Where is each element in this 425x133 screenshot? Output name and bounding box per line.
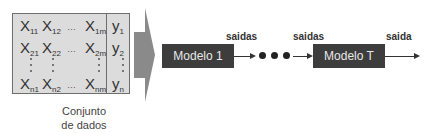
outputs-label-1: saidas: [226, 31, 257, 42]
dot-icon: [283, 52, 290, 59]
cell-y2: y2: [112, 40, 124, 58]
big-arrow-icon: [132, 6, 158, 104]
connector-line: [234, 56, 250, 57]
dot-icon: [271, 52, 278, 59]
connector-line: [293, 56, 307, 57]
cell-x12: X12: [42, 18, 61, 36]
cell-xn2: Xn2: [42, 76, 61, 94]
cell-x2m: X2m: [85, 40, 106, 58]
vertical-ellipsis: [52, 58, 54, 76]
outputs-label-2: saidas: [293, 31, 324, 42]
arrowhead-icon: [250, 53, 256, 59]
vertical-ellipsis: [98, 58, 100, 76]
cell-xnm: Xnm: [85, 76, 106, 94]
arrowhead-icon: [414, 53, 420, 59]
final-output-label: saida: [386, 31, 412, 42]
vertical-ellipsis: [30, 58, 32, 76]
cell-x22: X22: [42, 40, 61, 58]
dataset-caption: Conjunto de dados: [34, 104, 134, 132]
target-column-divider: [106, 13, 107, 94]
connector-line: [385, 56, 414, 57]
cell-x1m: X1m: [85, 18, 106, 36]
model-1-box: Modelo 1: [162, 44, 234, 68]
cell-x11: X11: [20, 18, 38, 36]
caption-line2: de dados: [34, 118, 134, 132]
ellipsis: …: [67, 80, 76, 90]
cell-y1: y1: [112, 18, 124, 36]
model-t-box: Modelo T: [313, 44, 385, 68]
vertical-ellipsis: [122, 58, 124, 76]
ellipsis: …: [67, 44, 76, 54]
caption-line1: Conjunto: [34, 104, 134, 118]
cell-x21: X21: [20, 40, 39, 58]
dot-icon: [259, 52, 266, 59]
cell-yn: yn: [112, 76, 124, 94]
ellipsis: …: [67, 22, 76, 32]
cell-xn1: Xn1: [20, 76, 39, 94]
